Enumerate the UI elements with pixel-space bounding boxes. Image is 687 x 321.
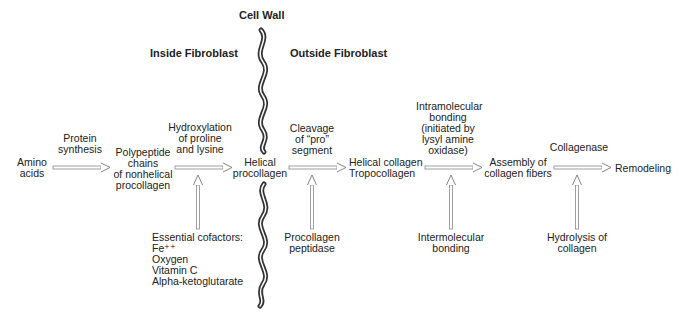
node-assembly-collagen-fibers: Assembly of collagen fibers (482, 157, 554, 179)
input-hydrolysis-of-collagen: Hydrolysis of collagen (546, 232, 608, 254)
arrow-helical-to-tropocollagen (289, 163, 346, 172)
arrow-hydrolysis-up (573, 175, 582, 229)
node-helical-procollagen: Helical procollagen (232, 157, 288, 179)
node-remodeling: Remodeling (615, 163, 671, 174)
label-hydroxylation: Hydroxylation of proline and lysine (168, 122, 232, 155)
node-polypeptide-chains: Polypeptide chains of nonhelical procoll… (112, 147, 174, 191)
node-amino-acids: Amino acids (12, 157, 52, 179)
node-helical-collagen-tropocollagen: Helical collagen Tropocollagen (349, 157, 423, 179)
inside-fibroblast-header: Inside Fibroblast (150, 47, 238, 59)
label-intramolecular-bonding: Intramolecular bonding (initiated by lys… (416, 101, 480, 156)
arrow-assembly-to-remodeling (554, 163, 611, 172)
input-intermolecular-bonding: Intermolecular bonding (415, 232, 487, 254)
arrow-intermolecular-up (447, 175, 456, 229)
input-essential-cofactors: Essential cofactors: Fe⁺⁺ Oxygen Vitamin… (152, 232, 243, 287)
arrow-peptidase-up (308, 175, 317, 229)
label-protein-synthesis: Protein synthesis (52, 133, 108, 155)
label-cleavage-pro-segment: Cleavage of “pro” segment (288, 123, 336, 156)
outside-fibroblast-header: Outside Fibroblast (290, 47, 387, 59)
arrow-tropocollagen-to-assembly (425, 163, 482, 172)
input-procollagen-peptidase: Procollagen peptidase (282, 232, 342, 254)
cell-wall-header: Cell Wall (239, 9, 284, 21)
label-collagenase: Collagenase (548, 142, 610, 153)
arrow-cofactors-up (194, 175, 203, 229)
cell-wall-upper (260, 30, 265, 152)
arrow-polypeptide-to-helical (175, 163, 232, 172)
cell-wall-lower (260, 184, 266, 306)
arrow-amino-to-polypeptide (53, 163, 110, 172)
